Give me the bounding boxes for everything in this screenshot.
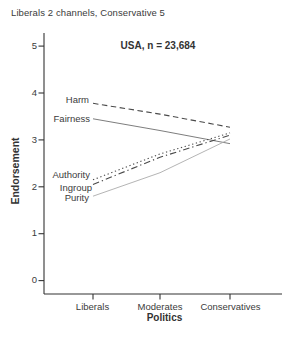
y-axis-label: Endorsement (9, 137, 21, 204)
series-label-harm: Harm (49, 94, 89, 105)
x-axis-label: Politics (134, 312, 195, 323)
chart-subtitle: USA, n = 23,684 (98, 40, 218, 51)
x-tick-label-moderates: Moderates (125, 301, 195, 312)
series-line-fairness (93, 119, 230, 144)
y-tick-label: 1 (20, 227, 37, 238)
x-tick-label-conservatives: Conservatives (190, 301, 271, 312)
series-line-ingroup (93, 135, 230, 184)
figure-title: Liberals 2 channels, Conservative 5 (11, 7, 165, 18)
x-tick-label-liberals: Liberals (60, 301, 125, 312)
series-line-purity (93, 139, 230, 196)
y-tick-label: 2 (20, 181, 37, 192)
y-tick-label: 5 (20, 40, 37, 51)
series-label-purity: Purity (44, 192, 89, 203)
y-tick-label: 4 (20, 87, 37, 98)
series-label-authority: Authority (41, 169, 90, 180)
y-tick-label: 3 (20, 134, 37, 145)
series-line-harm (93, 103, 230, 127)
figure: Liberals 2 channels, Conservative 5 USA,… (0, 0, 291, 342)
y-tick-label: 0 (20, 274, 37, 285)
series-label-fairness: Fairness (45, 113, 90, 124)
